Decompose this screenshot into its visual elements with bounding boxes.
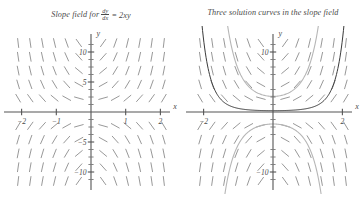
slope-tick	[281, 137, 289, 141]
slope-tick	[124, 95, 131, 101]
slope-tick	[53, 149, 56, 157]
slope-tick	[64, 136, 70, 143]
slope-tick	[53, 52, 56, 61]
slope-tick	[17, 80, 20, 89]
slope-tick	[139, 52, 141, 61]
slope-tick	[281, 97, 290, 99]
slope-tick	[162, 94, 167, 102]
slope-tick	[113, 150, 118, 158]
slope-tick	[100, 53, 106, 60]
slope-tick	[150, 80, 153, 88]
slope-tick	[198, 94, 203, 102]
x-tick-label: 1	[124, 117, 128, 126]
slope-tick	[295, 163, 299, 171]
slope-tick	[99, 125, 108, 127]
slope-tick	[126, 52, 129, 61]
slope-tick	[114, 39, 117, 47]
slope-tick	[257, 97, 266, 99]
slope-tick	[100, 68, 107, 74]
y-tick-label: −10	[74, 168, 87, 177]
slope-tick	[63, 96, 71, 100]
slope-tick	[100, 164, 106, 171]
slope-tick	[235, 163, 238, 172]
slope-tick	[64, 67, 69, 75]
slope-tick	[345, 177, 346, 186]
slope-tick	[199, 66, 201, 75]
slope-tick	[163, 52, 164, 61]
caption-rhs: 2xy	[119, 11, 131, 20]
slope-tick	[223, 66, 226, 75]
y-axis-label: y	[96, 29, 101, 38]
slope-tick	[257, 137, 265, 141]
solution-curves-plot: −22−1010xy	[182, 26, 364, 194]
slope-tick	[65, 39, 68, 47]
panel-solution-curves: Three solution curves in the slope field…	[182, 0, 364, 198]
slope-tick	[113, 67, 118, 75]
slope-tick	[333, 39, 334, 48]
slope-tick	[199, 52, 200, 61]
slope-tick	[125, 81, 130, 89]
slope-tick	[18, 39, 19, 48]
slope-tick	[75, 97, 84, 99]
slope-tick	[293, 124, 301, 128]
slope-tick	[30, 39, 31, 48]
slope-tick	[293, 96, 301, 100]
slope-tick	[29, 135, 32, 143]
slope-tick	[258, 39, 263, 46]
slope-tick	[114, 177, 117, 185]
panel-solution-curves-caption: Three solution curves in the slope field	[182, 8, 364, 17]
slope-tick	[308, 52, 311, 61]
slope-tick	[163, 39, 164, 48]
slope-tick	[65, 177, 68, 185]
slope-tick	[295, 53, 299, 61]
slope-tick	[137, 95, 143, 102]
slope-tick	[333, 149, 335, 158]
y-tick-label: 5	[83, 78, 87, 87]
slope-tick	[42, 177, 44, 186]
slope-tick	[41, 80, 45, 88]
slope-tick	[320, 135, 324, 143]
y-tick-label: 10	[261, 48, 269, 57]
slope-tick	[28, 122, 33, 129]
slope-tick	[333, 52, 335, 61]
slope-tick	[18, 177, 19, 186]
slope-tick	[211, 149, 213, 158]
slope-tick	[75, 151, 82, 157]
panel-slope-field-caption: Slope field for dy dx = 2xy	[0, 8, 182, 22]
slope-tick	[199, 135, 202, 144]
slope-tick	[63, 124, 71, 128]
slope-tick	[307, 136, 312, 144]
slope-tick	[151, 177, 152, 186]
slope-tick	[321, 177, 323, 186]
slope-tick	[111, 124, 119, 128]
slope-tick	[137, 122, 143, 129]
slope-tick	[41, 66, 44, 75]
slope-tick	[200, 177, 201, 186]
slope-tick	[126, 177, 128, 186]
slope-tick	[111, 96, 119, 100]
slope-tick	[163, 66, 165, 75]
slope-tick	[17, 66, 19, 75]
slope-tick	[211, 135, 214, 143]
figure-sheet: Slope field for dy dx = 2xy −2−112−10−55…	[0, 0, 364, 198]
slope-tick	[17, 163, 18, 172]
slope-tick	[101, 177, 106, 184]
slope-tick	[75, 82, 83, 86]
slope-tick	[99, 137, 107, 141]
slope-tick	[224, 177, 226, 186]
slope-tick	[282, 151, 289, 157]
slope-tick	[42, 39, 44, 48]
slope-tick	[345, 149, 347, 158]
slope-tick	[247, 39, 250, 47]
slope-tick	[333, 177, 334, 186]
axes	[186, 34, 352, 190]
slope-tick	[29, 163, 31, 172]
slope-tick	[54, 39, 56, 48]
slope-tick	[163, 135, 166, 144]
slope-tick	[112, 136, 118, 143]
y-tick-label: 10	[79, 48, 87, 57]
slope-tick	[282, 164, 288, 171]
slope-tick	[17, 149, 19, 158]
slope-tick	[319, 122, 325, 129]
slope-tick	[126, 66, 129, 74]
